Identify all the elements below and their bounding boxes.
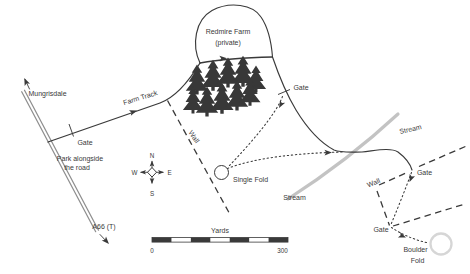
compass-rose: N S W E	[132, 152, 172, 198]
farm-track-label: Farm Track	[122, 89, 158, 106]
scale-min-label: 0	[150, 247, 154, 254]
redmire-private-label: (private)	[215, 39, 241, 47]
route-arrow-chord-icon	[219, 55, 227, 61]
farm-track-loop-chord	[200, 57, 273, 63]
mungrisdale-label: Mungrisdale	[28, 90, 66, 98]
a66-label: A66 (T)	[92, 223, 115, 231]
scale-bar: Yards 0 300	[150, 227, 288, 254]
scale-unit-label: Yards	[211, 227, 229, 234]
single-fold-label: Single Fold	[233, 176, 268, 184]
route-dotted-to-boulder-fold	[392, 228, 429, 244]
gate-label-boundary: Gate	[293, 84, 308, 91]
boundary-line-east	[273, 57, 413, 170]
single-fold-circle	[215, 166, 229, 180]
scale-max-label: 300	[277, 247, 288, 254]
boulder-fold-circle	[431, 234, 452, 255]
route-arrow-after-gate-icon	[276, 100, 285, 109]
gate-label-ne-wall: Gate	[417, 169, 432, 176]
stream-line	[288, 114, 398, 199]
route-dotted-gate-to-gate	[391, 173, 412, 226]
wall-dashed-ne-lower	[379, 173, 406, 185]
compass-center-diamond	[148, 168, 157, 178]
scale-bar-segment	[191, 238, 210, 243]
compass-east-label: E	[167, 169, 171, 176]
gate-label-track: Gate	[77, 139, 92, 146]
route-sketch-map-canvas: N S W E Yards 0 300 Mungrisdale Farm Tra…	[0, 0, 470, 274]
boulder-fold-label-line1: Boulder	[403, 246, 428, 253]
stream-label-upper: Stream	[399, 123, 423, 135]
conifer-plantation	[183, 56, 266, 117]
scale-bar-segment	[269, 238, 288, 243]
wall-dashed-se-left	[377, 191, 390, 226]
park-note-line1: Park alongside	[57, 155, 103, 163]
route-arrow-boulder-icon	[398, 232, 407, 240]
route-sketch-map: N S W E Yards 0 300 Mungrisdale Farm Tra…	[0, 0, 470, 274]
wall-label-east: Wall	[366, 177, 381, 189]
redmire-farm-label: Redmire Farm	[206, 28, 251, 35]
scale-bar-frame	[152, 238, 288, 243]
scale-bar-segment	[230, 238, 249, 243]
compass-north-label: N	[150, 152, 155, 159]
road-arrow-north-icon	[22, 77, 30, 86]
compass-south-label: S	[150, 190, 154, 197]
scale-bar-segment	[152, 238, 171, 243]
stream-label-lower: Stream	[283, 194, 306, 201]
wall-dashed-ne-upper	[419, 146, 467, 167]
gate-tick-boundary	[278, 90, 290, 95]
boulder-fold-label-line2: Fold	[411, 257, 425, 264]
wall-dashed-west	[168, 101, 230, 214]
gate-label-se-wall: Gate	[373, 226, 388, 233]
park-note-line2: the road	[64, 164, 90, 171]
wall-dashed-se-right	[393, 204, 467, 227]
wall-label-west: Wall	[187, 129, 201, 144]
compass-west-label: W	[132, 169, 138, 176]
